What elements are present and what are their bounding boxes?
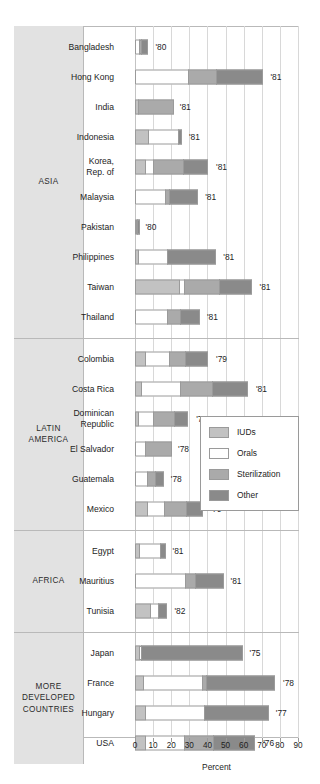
x-tick-label-70: 70 (257, 741, 266, 750)
bar-segment-other (204, 706, 269, 721)
bar-year-label: '82 (174, 606, 185, 616)
row-label: Korea,Rep. of (14, 156, 120, 177)
bar-year-label: '78 (171, 474, 182, 484)
bar-segment-sterilization (153, 412, 175, 427)
bar-segment-sterilization (188, 70, 217, 85)
bar-segment-iuds (135, 604, 151, 619)
bar-segment-other (160, 544, 165, 559)
table-row: Bangladesh'80 (14, 32, 299, 62)
table-row: Thailand'81 (14, 302, 299, 332)
table-row: India'81 (14, 92, 299, 122)
bar-year-label: '81 (270, 72, 281, 82)
chart-root: ASIALATINAMERICAAFRICAMOREDEVELOPEDCOUNT… (0, 0, 320, 784)
bar-segment-other (183, 160, 208, 175)
x-tick-label-20: 20 (167, 741, 176, 750)
bar-segment-other (158, 604, 167, 619)
row-label: Malaysia (14, 192, 120, 203)
stacked-bar (135, 574, 224, 589)
legend-swatch-other (209, 490, 229, 501)
stacked-bar (135, 544, 166, 559)
bar-segment-sterilization (153, 160, 184, 175)
stacked-bar (135, 250, 216, 265)
stacked-bar (135, 604, 167, 619)
bar-year-label: '81 (231, 576, 242, 586)
row-label: Hong Kong (14, 72, 120, 83)
bar-segment-orals (138, 412, 154, 427)
row-label: Colombia (14, 354, 120, 365)
row-label: Costa Rica (14, 384, 120, 395)
table-row: France'78 (14, 668, 299, 698)
bar-segment-orals (143, 676, 203, 691)
stacked-bar (135, 442, 172, 457)
bar-segment-other (219, 280, 252, 295)
bar-segment-orals (141, 382, 181, 397)
bar-segment-other (141, 646, 242, 661)
bar-year-label: '81 (173, 546, 184, 556)
row-label: India (14, 102, 120, 113)
legend-label: IUDs (237, 427, 256, 437)
table-row: Indonesia'81 (14, 122, 299, 152)
bar-segment-orals (145, 352, 170, 367)
row-label: Taiwan (14, 282, 120, 293)
bar-segment-orals (139, 544, 161, 559)
table-row: Colombia'79 (14, 344, 299, 374)
row-label: Egypt (14, 546, 120, 557)
bar-segment-sterilization (138, 100, 174, 115)
row-label: Philippines (14, 252, 120, 263)
bar-segment-iuds (135, 280, 180, 295)
x-tick-label-50: 50 (221, 741, 230, 750)
bar-segment-sterilization (167, 310, 181, 325)
row-label: Hungary (14, 708, 120, 719)
row-label: France (14, 678, 120, 689)
bar-segment-other (195, 574, 224, 589)
bar-segment-other (185, 352, 209, 367)
bar-year-label: '81 (189, 132, 200, 142)
bar-segment-sterilization (164, 502, 188, 517)
bar-year-label: '75 (250, 648, 261, 658)
bar-segment-orals (138, 250, 169, 265)
bar-segment-other (174, 412, 188, 427)
bar-segment-sterilization (169, 352, 185, 367)
stacked-bar (135, 646, 243, 661)
bar-year-label: '81 (207, 312, 218, 322)
bar-year-label: '80 (155, 42, 166, 52)
stacked-bar (135, 382, 248, 397)
bar-segment-other (169, 190, 198, 205)
stacked-bar (135, 310, 200, 325)
legend-item-other: Other (209, 487, 289, 503)
stacked-bar (135, 472, 164, 487)
bar-segment-other (141, 40, 148, 55)
stacked-bar (135, 70, 263, 85)
chart-legend: IUDsOralsSterilizationOther (200, 416, 299, 511)
table-row: Egypt'81 (14, 536, 299, 566)
table-row: Tunisia'82 (14, 596, 299, 626)
bar-year-label: '81 (223, 252, 234, 262)
x-axis-title: Percent (135, 762, 298, 772)
x-tick-label-80: 80 (275, 741, 284, 750)
row-label: Guatemala (14, 474, 120, 485)
bar-year-label: '81 (216, 162, 227, 172)
bar-year-label: '78 (283, 678, 294, 688)
stacked-bar (135, 676, 275, 691)
bar-year-label: '77 (276, 708, 287, 718)
region-separator (14, 338, 299, 339)
bar-year-label: '81 (260, 282, 271, 292)
x-tick-label-60: 60 (239, 741, 248, 750)
bar-segment-sterilization (184, 280, 220, 295)
x-tick-label-40: 40 (203, 741, 212, 750)
stacked-bar (135, 220, 140, 235)
x-axis: 0102030405060708090 (135, 738, 298, 752)
region-separator (14, 632, 299, 633)
bar-segment-orals (135, 70, 189, 85)
bar-segment-iuds (135, 130, 149, 145)
bar-segment-other (178, 130, 182, 145)
bar-segment-other (212, 382, 248, 397)
row-label: Thailand (14, 312, 120, 323)
bar-segment-other (167, 250, 216, 265)
table-row: Malaysia'81 (14, 182, 299, 212)
legend-label: Other (237, 490, 258, 500)
table-row: Pakistan'80 (14, 212, 299, 242)
bar-segment-orals (135, 190, 166, 205)
table-row: Hong Kong'81 (14, 62, 299, 92)
table-row: Philippines'81 (14, 242, 299, 272)
